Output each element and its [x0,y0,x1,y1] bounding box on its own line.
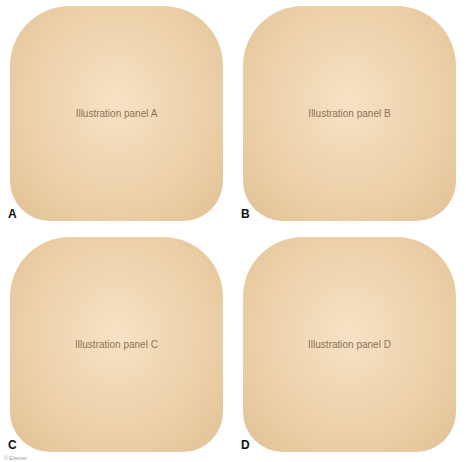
illustration-placeholder: Illustration panel B [243,6,456,221]
panel-c: Illustration panel C C [0,231,233,462]
panel-label: B [241,207,250,221]
illustration-placeholder: Illustration panel C [10,237,223,452]
placeholder-note: Illustration panel A [56,108,178,119]
figure-caption: © Elsevier [4,455,27,461]
placeholder-note: Illustration panel B [288,108,410,119]
panel-label: D [241,438,250,452]
placeholder-note: Illustration panel C [55,339,178,350]
panel-label: A [8,207,17,221]
four-panel-figure: Illustration panel A A Illustration pane… [0,0,466,462]
panel-d: Illustration panel D D [233,231,466,462]
placeholder-note: Illustration panel D [288,339,411,350]
panel-b: Illustration panel B B [233,0,466,231]
panel-a: Illustration panel A A [0,0,233,231]
panel-label: C [8,438,17,452]
illustration-placeholder: Illustration panel D [243,237,456,452]
illustration-placeholder: Illustration panel A [10,6,223,221]
